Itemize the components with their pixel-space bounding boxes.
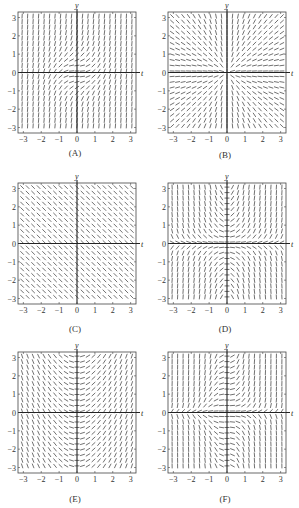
x-tick-label: 1: [243, 135, 247, 144]
y-tick-label: −3: [7, 295, 16, 304]
panel-caption: (A): [0, 148, 150, 158]
x-tick-label: 3: [279, 475, 283, 484]
slope-field-panel-c: ty−3−2−10123−3−2−10123 (C): [0, 171, 150, 341]
x-tick-label: 1: [243, 306, 247, 315]
y-tick-label: −2: [7, 105, 16, 114]
y-tick-label: −1: [7, 87, 16, 96]
y-tick-label: 1: [162, 50, 166, 59]
y-tick-label: 1: [162, 390, 166, 399]
x-tick-label: 0: [225, 306, 229, 315]
y-tick-label: −2: [7, 445, 16, 454]
x-tick-label: −3: [19, 306, 28, 315]
slope-field-plot: ty−3−2−10123−3−2−10123: [0, 0, 150, 150]
y-tick-label: 3: [12, 185, 16, 194]
y-tick-label: 3: [12, 354, 16, 363]
slope-field-plot: ty−3−2−10123−3−2−10123: [150, 340, 299, 490]
y-tick-label: 0: [12, 69, 16, 78]
x-tick-label: −2: [187, 475, 196, 484]
x-tick-label: 3: [129, 475, 133, 484]
x-tick-label: 3: [129, 306, 133, 315]
y-tick-label: 2: [12, 203, 16, 212]
y-tick-label: 0: [12, 240, 16, 249]
slope-field-plot: ty−3−2−10123−3−2−10123: [0, 171, 150, 321]
slope-field-panel-e: ty−3−2−10123−3−2−10123 (E): [0, 340, 150, 508]
y-tick-label: −3: [157, 124, 166, 133]
x-tick-label: 2: [111, 306, 115, 315]
t-axis-label: t: [141, 69, 144, 78]
x-tick-label: −2: [187, 135, 196, 144]
y-tick-label: −1: [157, 427, 166, 436]
y-tick-label: 0: [162, 240, 166, 249]
y-tick-label: 3: [162, 354, 166, 363]
x-tick-label: 1: [93, 475, 97, 484]
x-tick-label: −2: [37, 475, 46, 484]
slope-field-panel-f: ty−3−2−10123−3−2−10123 (F): [150, 340, 299, 508]
y-tick-label: −1: [7, 427, 16, 436]
x-tick-label: −1: [205, 475, 214, 484]
y-tick-label: −2: [157, 105, 166, 114]
y-tick-label: 1: [12, 221, 16, 230]
y-tick-label: 3: [162, 185, 166, 194]
x-tick-label: −3: [19, 135, 28, 144]
x-tick-label: 3: [129, 135, 133, 144]
t-axis-label: t: [141, 409, 144, 418]
x-tick-label: 2: [111, 475, 115, 484]
x-tick-label: −3: [19, 475, 28, 484]
x-tick-label: −1: [55, 306, 64, 315]
y-tick-label: −2: [157, 445, 166, 454]
panel-caption: (F): [150, 494, 299, 504]
slope-field-panel-d: ty−3−2−10123−3−2−10123 (D): [150, 171, 299, 341]
y-tick-label: −3: [7, 464, 16, 473]
x-tick-label: −2: [37, 306, 46, 315]
y-tick-label: −1: [157, 258, 166, 267]
y-tick-label: 3: [162, 14, 166, 23]
x-tick-label: 0: [75, 306, 79, 315]
slope-field-panel-b: ty−3−2−10123−3−2−10123 (B): [150, 0, 299, 170]
x-tick-label: −1: [205, 135, 214, 144]
x-tick-label: −1: [55, 475, 64, 484]
y-tick-label: −2: [157, 276, 166, 285]
panel-caption: (E): [0, 494, 150, 504]
x-tick-label: 0: [225, 135, 229, 144]
y-axis-label: y: [224, 1, 229, 10]
y-tick-label: −1: [7, 258, 16, 267]
t-axis-label: t: [141, 240, 144, 249]
x-tick-label: 1: [93, 135, 97, 144]
y-tick-label: 1: [12, 50, 16, 59]
slope-field-plot: ty−3−2−10123−3−2−10123: [150, 0, 299, 150]
x-tick-label: −1: [205, 306, 214, 315]
x-tick-label: 2: [261, 306, 265, 315]
y-tick-label: 2: [162, 32, 166, 41]
x-tick-label: −3: [169, 475, 178, 484]
y-tick-label: −3: [157, 464, 166, 473]
slope-field-plot: ty−3−2−10123−3−2−10123: [150, 171, 299, 321]
y-tick-label: 0: [162, 409, 166, 418]
y-tick-label: −3: [157, 295, 166, 304]
y-tick-label: 2: [12, 372, 16, 381]
x-tick-label: −1: [55, 135, 64, 144]
x-tick-label: −3: [169, 306, 178, 315]
y-tick-label: 1: [162, 221, 166, 230]
y-tick-label: 2: [162, 372, 166, 381]
t-axis-label: t: [291, 69, 294, 78]
y-tick-label: 0: [12, 409, 16, 418]
t-axis-label: t: [291, 409, 294, 418]
x-tick-label: −3: [169, 135, 178, 144]
slope-field-plot: ty−3−2−10123−3−2−10123: [0, 340, 150, 490]
x-tick-label: 2: [111, 135, 115, 144]
panel-caption: (D): [150, 324, 299, 334]
y-axis-label: y: [74, 341, 79, 350]
x-tick-label: 3: [279, 135, 283, 144]
y-tick-label: 2: [162, 203, 166, 212]
y-axis-label: y: [74, 1, 79, 10]
y-tick-label: −1: [157, 87, 166, 96]
y-tick-label: 1: [12, 390, 16, 399]
y-tick-label: −3: [7, 124, 16, 133]
x-tick-label: 1: [243, 475, 247, 484]
x-tick-label: 3: [279, 306, 283, 315]
panel-caption: (B): [150, 150, 299, 160]
y-tick-label: −2: [7, 276, 16, 285]
x-tick-label: −2: [37, 135, 46, 144]
x-tick-label: 0: [225, 475, 229, 484]
x-tick-label: 2: [261, 475, 265, 484]
